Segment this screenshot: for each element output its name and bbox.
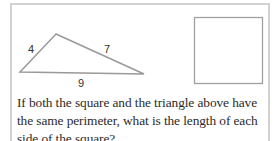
triangle-side-left-label: 4	[28, 43, 34, 55]
triangle-side-right-label: 7	[104, 43, 110, 55]
triangle-side-bottom-label: 9	[78, 77, 84, 89]
question-text: If both the square and the triangle abov…	[17, 94, 272, 141]
triangle-shape	[20, 34, 144, 74]
square-shape	[195, 18, 263, 84]
